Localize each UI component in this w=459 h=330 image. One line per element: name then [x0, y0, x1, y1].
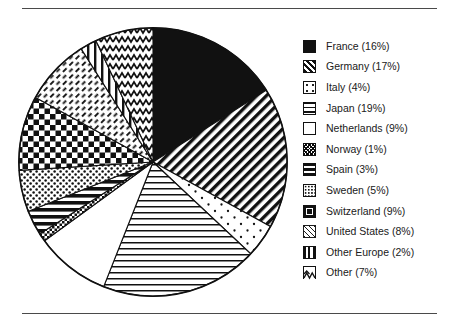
pie-chart-area: [0, 0, 290, 330]
legend-item-france[interactable]: France (16%): [303, 36, 453, 57]
legend-label-france: France (16%): [326, 41, 390, 52]
legend-item-italy[interactable]: Italy (4%): [303, 77, 453, 98]
legend-item-other-europe[interactable]: Other Europe (2%): [303, 242, 453, 263]
legend-swatch-japan: [303, 102, 316, 115]
legend-item-united-states[interactable]: United States (8%): [303, 221, 453, 242]
legend-item-norway[interactable]: Norway (1%): [303, 139, 453, 160]
legend-swatch-italy: [303, 81, 316, 94]
legend-label-switzerland: Switzerland (9%): [326, 206, 405, 217]
legend-swatch-spain: [303, 163, 316, 176]
legend-label-united-states: United States (8%): [326, 226, 414, 237]
legend-item-switzerland[interactable]: Switzerland (9%): [303, 201, 453, 222]
legend-item-sweden[interactable]: Sweden (5%): [303, 180, 453, 201]
legend-swatch-other: [303, 266, 316, 279]
legend-label-netherlands: Netherlands (9%): [326, 123, 408, 134]
legend-swatch-sweden: [303, 184, 316, 197]
legend-label-italy: Italy (4%): [326, 82, 370, 93]
legend-item-other[interactable]: Other (7%): [303, 263, 453, 284]
legend-swatch-united-states: [303, 225, 316, 238]
legend-item-japan[interactable]: Japan (19%): [303, 98, 453, 119]
legend-swatch-france: [303, 40, 316, 53]
legend-label-other: Other (7%): [326, 267, 377, 278]
legend-label-norway: Norway (1%): [326, 144, 387, 155]
chart-legend: France (16%)Germany (17%)Italy (4%)Japan…: [303, 36, 453, 283]
legend-label-spain: Spain (3%): [326, 164, 378, 175]
legend-swatch-other-europe: [303, 246, 316, 259]
legend-label-germany: Germany (17%): [326, 61, 400, 72]
legend-swatch-netherlands: [303, 122, 316, 135]
legend-item-germany[interactable]: Germany (17%): [303, 57, 453, 78]
legend-label-other-europe: Other Europe (2%): [326, 247, 414, 258]
legend-label-japan: Japan (19%): [326, 103, 386, 114]
legend-swatch-switzerland: [303, 205, 316, 218]
legend-item-spain[interactable]: Spain (3%): [303, 160, 453, 181]
legend-swatch-norway: [303, 143, 316, 156]
legend-swatch-germany: [303, 60, 316, 73]
legend-label-sweden: Sweden (5%): [326, 185, 389, 196]
pie-chart: [17, 26, 289, 298]
legend-item-netherlands[interactable]: Netherlands (9%): [303, 118, 453, 139]
